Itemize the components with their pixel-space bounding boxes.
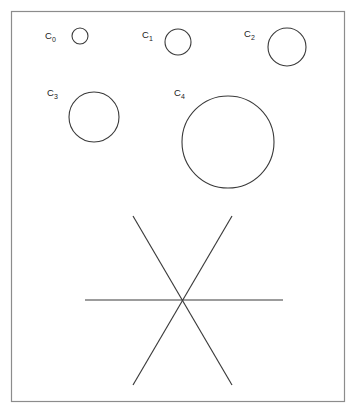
figure-border-frame: [12, 12, 345, 402]
figure-drawing: C0 C1 C2 C3 C4: [0, 0, 357, 412]
figure-canvas: C0 C1 C2 C3 C4: [0, 0, 357, 412]
